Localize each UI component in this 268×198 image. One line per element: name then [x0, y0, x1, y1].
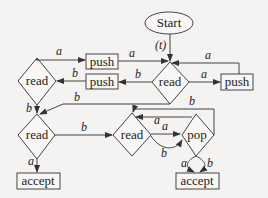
edge-label: a [181, 156, 187, 170]
svg-text:accept: accept [21, 173, 55, 188]
edge-label: a [154, 113, 160, 127]
edge-label: a [205, 48, 211, 62]
svg-text:read: read [121, 127, 144, 142]
edge-label: b [72, 66, 78, 80]
edge-label: a [56, 44, 62, 58]
flowchart-diagram: Start (t) read read push push push a a b… [0, 0, 268, 198]
svg-text:read: read [26, 73, 49, 88]
edge-label: a [162, 119, 168, 133]
pop-node: pop [182, 114, 214, 156]
edge-label: b [81, 120, 87, 134]
edge-label: b [207, 156, 213, 170]
svg-text:read: read [26, 127, 49, 142]
edge-label: (t) [155, 38, 166, 52]
edge-label: a [201, 67, 207, 81]
svg-text:read: read [159, 74, 182, 89]
read-top-left-node: read [18, 58, 56, 105]
accept-right-node: accept [176, 173, 219, 189]
read-bottom-mid-node: read [113, 113, 151, 156]
read-bottom-left-node: read [18, 114, 55, 159]
edge-pop-to-accept-a [188, 156, 197, 172]
svg-text:push: push [90, 74, 115, 89]
accept-left-node: accept [17, 173, 60, 189]
edge-label: b [135, 67, 141, 81]
read-top-right-node: read [152, 62, 189, 104]
start-node: Start [145, 12, 193, 34]
push-mid-node: push [86, 74, 118, 89]
edge-label: b [161, 146, 167, 160]
svg-text:accept: accept [180, 173, 214, 188]
edge-read-left-to-push-top [37, 58, 85, 60]
edge-label: b [26, 101, 32, 115]
edge-label: a [129, 46, 135, 60]
svg-text:push: push [90, 54, 115, 69]
edge-pop-to-accept-b [196, 156, 205, 172]
svg-text:push: push [225, 74, 250, 89]
svg-text:Start: Start [157, 15, 182, 30]
push-right-node: push [221, 74, 253, 90]
edge-label: a [28, 154, 34, 168]
push-top-node: push [86, 54, 118, 69]
svg-text:pop: pop [187, 127, 207, 142]
edge-label: b [74, 90, 80, 104]
edge-label: b [189, 94, 195, 108]
